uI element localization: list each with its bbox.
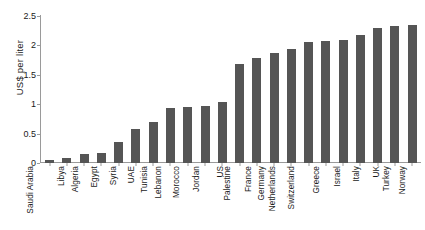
x-axis-tick-label: Tunisia — [140, 166, 149, 193]
x-axis-label-slot: Norway — [404, 164, 421, 228]
y-axis-tick-label: 1.5 — [6, 70, 36, 80]
bar — [80, 154, 89, 163]
x-axis-label-slot: Jordan — [196, 164, 213, 228]
bar-slot — [335, 15, 352, 163]
x-axis-label-slot: Italy — [352, 164, 369, 228]
y-axis-tick-label: 0.5 — [6, 129, 36, 139]
x-axis-tick-label: Netherlands — [269, 166, 278, 211]
x-axis-tick-label: UK — [372, 166, 381, 178]
y-axis-tick-mark — [37, 16, 40, 17]
y-axis-tick-mark — [37, 75, 40, 76]
bar-slot — [162, 15, 179, 163]
bar-slot — [110, 15, 127, 163]
bar-series — [41, 15, 421, 163]
bar-slot — [248, 15, 265, 163]
bar-slot — [386, 15, 403, 163]
y-axis-tick-mark — [37, 45, 40, 46]
bar-slot — [283, 15, 300, 163]
x-axis-labels: Saudi ArabiaLibyaAlgeriaEgyptSyriaUAETun… — [41, 164, 421, 228]
y-axis-tick-label: 2 — [6, 40, 36, 50]
x-axis-label-slot: Israel — [335, 164, 352, 228]
x-axis-tick-label: Lebanon — [154, 166, 163, 199]
bar — [321, 41, 330, 163]
bar — [373, 28, 382, 163]
x-axis-tick-label: Turkey — [382, 166, 391, 191]
bar — [235, 64, 244, 163]
bar-slot — [93, 15, 110, 163]
x-axis-tick-label: Palestine — [222, 166, 231, 201]
x-axis-tick-label: Morocco — [172, 166, 181, 198]
x-axis-tick-label: Syria — [109, 166, 118, 185]
bar — [270, 53, 279, 163]
x-axis-tick-label: Saudi Arabia — [26, 166, 35, 214]
bar — [408, 25, 417, 163]
y-axis-tick-mark — [37, 163, 40, 164]
x-axis-tick-label: Greece — [312, 166, 321, 193]
bar — [149, 122, 158, 163]
bar-slot — [265, 15, 282, 163]
bar — [97, 153, 106, 163]
bar-slot — [404, 15, 421, 163]
x-axis-label-slot: Syria — [110, 164, 127, 228]
bar — [114, 142, 123, 163]
bar-slot — [179, 15, 196, 163]
bar-slot — [127, 15, 144, 163]
x-axis-label-slot: Saudi Arabia — [41, 164, 58, 228]
bar-slot — [58, 15, 75, 163]
bar — [201, 106, 210, 163]
bar-slot — [352, 15, 369, 163]
x-axis-tick-label: Italy — [353, 166, 362, 182]
bar — [218, 102, 227, 163]
bar — [287, 49, 296, 163]
bar-slot — [300, 15, 317, 163]
y-axis-tick-label: 2.5 — [6, 11, 36, 21]
bar — [339, 40, 348, 163]
bar-slot — [214, 15, 231, 163]
x-axis-tick-label: Germany — [257, 166, 266, 200]
y-axis-tick-mark — [37, 134, 40, 135]
x-axis-label-slot: Egypt — [93, 164, 110, 228]
bar — [131, 129, 140, 163]
bar-slot — [231, 15, 248, 163]
bar-slot — [76, 15, 93, 163]
bar-slot — [145, 15, 162, 163]
x-axis-tick-label: France — [244, 166, 253, 192]
bar-slot — [369, 15, 386, 163]
x-axis-tick-label: UAE — [127, 166, 136, 183]
x-axis-tick-label: Norway — [398, 166, 407, 194]
bar — [166, 108, 175, 163]
bar-chart: US$ per liter 00.511.522.5 Saudi ArabiaL… — [0, 0, 425, 230]
bar — [252, 58, 261, 163]
y-axis-tick-mark — [37, 104, 40, 105]
bar — [390, 26, 399, 163]
x-axis-tick-label: Egypt — [91, 166, 100, 187]
bar — [304, 42, 313, 163]
bar-slot — [41, 15, 58, 163]
x-axis-tick-label: Jordan — [192, 166, 201, 192]
x-axis-tick-label: Israel — [333, 166, 342, 187]
x-axis-tick-label: Algeria — [71, 166, 80, 192]
bar-slot — [196, 15, 213, 163]
y-axis-tick-label: 1 — [6, 99, 36, 109]
bar-slot — [317, 15, 334, 163]
plot-area: 00.511.522.5 — [40, 15, 421, 163]
x-axis-tick-label: Libya — [57, 166, 66, 186]
bar — [356, 35, 365, 163]
x-axis-tick-label: Switzerland — [287, 166, 296, 209]
bar — [183, 107, 192, 163]
